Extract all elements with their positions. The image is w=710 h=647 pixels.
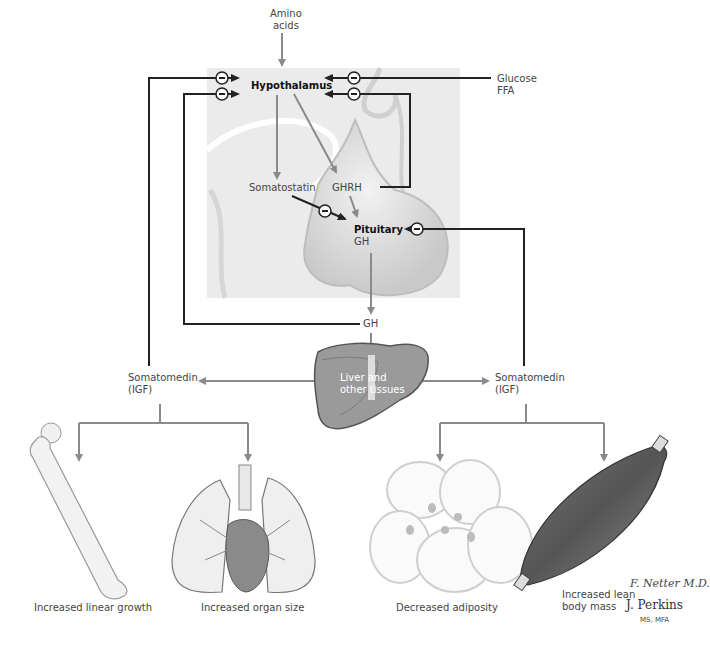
label-adiposity: Decreased adiposity — [396, 602, 498, 614]
label-somatomedin-left: Somatomedin (IGF) — [128, 372, 198, 396]
minus-icon — [411, 223, 423, 235]
minus-icon — [348, 72, 360, 84]
muscle-illustration — [514, 435, 668, 590]
label-organ-size: Increased organ size — [201, 602, 304, 614]
signature: F. Netter M.D. — [630, 578, 710, 590]
label-hypothalamus: Hypothalamus — [251, 80, 332, 92]
label-somatomedin-right: Somatomedin (IGF) — [495, 372, 565, 396]
label-amino-acids: Amino acids — [270, 8, 302, 32]
label-glucose-ffa: Glucose FFA — [497, 73, 537, 97]
label-liver: Liver and other tissues — [340, 372, 405, 396]
label-somatostatin: Somatostatin — [249, 182, 316, 194]
label-pituitary-gh: GH — [354, 236, 369, 248]
minus-icon — [348, 88, 360, 100]
heart-lungs-illustration — [172, 465, 315, 593]
label-ghrh: GHRH — [332, 182, 362, 194]
fat-cells-illustration — [370, 460, 532, 592]
artist-name: J. Perkins — [626, 599, 683, 611]
minus-icon — [216, 88, 228, 100]
label-gh: GH — [363, 318, 378, 330]
minus-icon — [216, 72, 228, 84]
label-lean-body-mass: Increased lean body mass — [562, 589, 635, 613]
artist-degree: MS, MFA — [640, 614, 669, 626]
minus-icon — [319, 205, 331, 217]
label-pituitary: Pituitary — [354, 224, 403, 236]
label-linear-growth: Increased linear growth — [34, 602, 152, 614]
